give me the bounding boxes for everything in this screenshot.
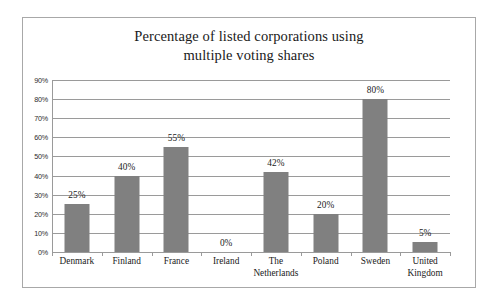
y-tick-label: 40%	[22, 171, 48, 180]
y-tick-label: 70%	[22, 114, 48, 123]
bar-value-label: 20%	[317, 200, 334, 210]
bar-finland[interactable]	[114, 176, 139, 252]
category-label-line: Netherlands	[251, 268, 301, 280]
bar-value-label: 80%	[367, 85, 384, 95]
bar-value-label: 55%	[168, 133, 185, 143]
category-label-denmark: Denmark	[52, 256, 102, 268]
y-tick-label: 20%	[22, 209, 48, 218]
bar-sweden[interactable]	[363, 99, 388, 252]
category-label-line: France	[152, 256, 202, 268]
category-label-line: Denmark	[52, 256, 102, 268]
y-tick-label: 50%	[22, 152, 48, 161]
category-tick	[450, 252, 451, 256]
bar-value-label: 0%	[220, 238, 232, 248]
category-label-line: The	[251, 256, 301, 268]
category-label-line: Poland	[301, 256, 351, 268]
bar-slot	[201, 80, 251, 252]
y-tick-label: 60%	[22, 133, 48, 142]
y-tick-label: 10%	[22, 228, 48, 237]
bar-poland[interactable]	[313, 214, 338, 252]
category-label-line: Sweden	[351, 256, 401, 268]
category-label-united-kingdom: UnitedKingdom	[400, 256, 450, 279]
y-axis-tick-labels: 0%10%20%30%40%50%60%70%80%90%	[20, 0, 48, 303]
y-tick-label: 90%	[22, 76, 48, 85]
bar-france[interactable]	[164, 147, 189, 252]
bar-value-label: 25%	[68, 190, 85, 200]
bar-slot	[52, 80, 102, 252]
bar-slot	[301, 80, 351, 252]
bar-slot	[351, 80, 401, 252]
chart-title-line-2: multiple voting shares	[23, 46, 475, 65]
category-label-line: United	[400, 256, 450, 268]
category-label-ireland: Ireland	[201, 256, 251, 268]
category-label-finland: Finland	[102, 256, 152, 268]
category-label-sweden: Sweden	[351, 256, 401, 268]
bar-value-label: 5%	[419, 228, 431, 238]
bar-united-kingdom[interactable]	[413, 242, 438, 252]
category-label-poland: Poland	[301, 256, 351, 268]
category-label-the-netherlands: TheNetherlands	[251, 256, 301, 279]
chart-title: Percentage of listed corporations using …	[23, 27, 475, 65]
category-label-france: France	[152, 256, 202, 268]
plot-area	[52, 80, 450, 252]
y-tick-label: 80%	[22, 95, 48, 104]
category-label-line: Finland	[102, 256, 152, 268]
category-label-line: Kingdom	[400, 268, 450, 280]
category-label-line: Ireland	[201, 256, 251, 268]
chart-title-line-1: Percentage of listed corporations using	[23, 27, 475, 46]
y-tick-label: 0%	[22, 248, 48, 257]
bar-value-label: 40%	[118, 162, 135, 172]
bar-the-netherlands[interactable]	[263, 172, 288, 252]
y-tick-label: 30%	[22, 190, 48, 199]
bar-denmark[interactable]	[64, 204, 89, 252]
bar-value-label: 42%	[267, 158, 284, 168]
bar-slot	[400, 80, 450, 252]
bar-slot	[152, 80, 202, 252]
